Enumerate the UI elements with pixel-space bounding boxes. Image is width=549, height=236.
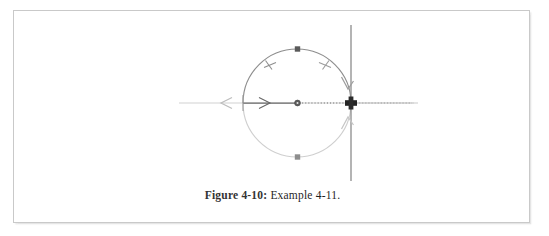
imaginary-axis-crossing-marker <box>345 97 357 110</box>
figure-frame: Figure 4-10: Example 4-11. <box>13 10 530 223</box>
page-canvas: Figure 4-10: Example 4-11. <box>0 0 549 236</box>
locus-tick-upper-right <box>319 61 331 70</box>
circular-locus-lower-arc <box>243 103 351 157</box>
diagram-plot-area <box>14 11 531 186</box>
locus-top-zero-marker <box>295 46 300 51</box>
figure-caption: Figure 4-10: Example 4-11. <box>14 189 531 201</box>
locus-center-pole-inner <box>297 102 299 104</box>
circular-locus-upper-arc <box>243 49 351 103</box>
locus-tick-upper-left <box>264 61 276 70</box>
figure-caption-text: Example 4-11. <box>270 189 340 201</box>
figure-caption-label: Figure 4-10: <box>205 189 271 201</box>
locus-bottom-zero-marker <box>295 154 300 159</box>
root-locus-diagram <box>14 11 531 186</box>
